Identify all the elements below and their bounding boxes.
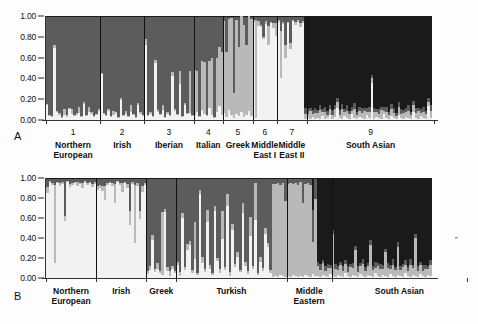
group-divider — [253, 16, 254, 120]
y-tick-label: 0.60 — [20, 213, 36, 223]
edge-artifact-mark: ” — [455, 235, 458, 244]
y-tick-mark — [38, 238, 44, 239]
y-tick-label: 0.80 — [20, 193, 36, 203]
ancestry-segment — [430, 16, 432, 105]
group-divider — [332, 178, 333, 278]
group-divider — [287, 178, 288, 278]
group-divider — [194, 16, 195, 120]
y-tick-label: 0.20 — [20, 94, 36, 104]
group-label: Northern European — [51, 286, 90, 306]
group-label: South Asian — [375, 286, 424, 296]
y-tick-mark — [38, 218, 44, 219]
group-label: Greek — [149, 286, 173, 296]
group-number: 5 — [235, 127, 240, 137]
group-label: Irish — [112, 286, 130, 296]
y-tick-label: 1.00 — [20, 173, 36, 183]
group-divider — [144, 16, 145, 120]
group-number: 1 — [71, 127, 76, 137]
panel-b-plot-area — [46, 178, 432, 278]
y-axis-spine — [45, 16, 46, 120]
panel-b-x-axis: Northern EuropeanIrishGreekTurkishMiddle… — [0, 278, 478, 323]
group-number: 9 — [368, 127, 373, 137]
y-tick-label: 0.60 — [20, 53, 36, 63]
y-tick-mark — [38, 258, 44, 259]
y-tick-mark — [38, 178, 44, 179]
group-divider — [100, 16, 101, 120]
group-divider — [277, 16, 278, 120]
group-label: Iberian — [155, 140, 183, 150]
group-label: Italian — [196, 140, 221, 150]
group-divider — [307, 16, 308, 120]
y-tick-mark — [38, 57, 44, 58]
group-label: Turkish — [216, 286, 246, 296]
group-label: Irish — [113, 140, 131, 150]
admixture-bar — [429, 178, 432, 278]
ancestry-segment — [430, 111, 432, 118]
group-divider — [96, 178, 97, 278]
y-tick-label: 0.20 — [20, 253, 36, 263]
group-label: Northern European — [53, 140, 92, 160]
admixture-bar — [430, 16, 432, 120]
group-label: Middle Eastern — [294, 286, 325, 306]
panel-a: A 0.000.200.400.600.801.00 1Northern Eur… — [0, 8, 478, 163]
y-tick-label: 0.40 — [20, 73, 36, 83]
y-tick-label: 0.80 — [20, 32, 36, 42]
group-label: South Asian — [346, 140, 395, 150]
group-number: 6 — [262, 127, 267, 137]
group-divider — [176, 178, 177, 278]
x-axis-spine — [42, 120, 438, 121]
group-number: 7 — [289, 127, 294, 137]
y-tick-mark — [38, 99, 44, 100]
group-number: 3 — [167, 127, 172, 137]
y-tick-mark — [38, 198, 44, 199]
group-divider — [223, 16, 224, 120]
admixture-figure: A 0.000.200.400.600.801.00 1Northern Eur… — [0, 0, 478, 324]
y-tick-label: 1.00 — [20, 11, 36, 21]
x-axis-spine — [42, 278, 438, 279]
group-number: 4 — [206, 127, 211, 137]
y-tick-mark — [38, 78, 44, 79]
y-tick-mark — [38, 16, 44, 17]
group-number: 2 — [120, 127, 125, 137]
group-label: Middle East II — [278, 140, 305, 160]
x-tick-mark — [467, 278, 468, 282]
panel-a-x-axis: 1Northern European2Irish3Iberian4Italian… — [0, 120, 478, 165]
group-divider — [146, 178, 147, 278]
ancestry-segment — [429, 265, 432, 276]
y-axis-spine — [45, 178, 46, 278]
group-label: Greek — [226, 140, 250, 150]
y-tick-label: 0.40 — [20, 233, 36, 243]
panel-b: B 0.000.200.400.600.801.00 Northern Euro… — [0, 172, 478, 324]
y-tick-mark — [38, 36, 44, 37]
ancestry-segment — [429, 178, 432, 260]
panel-a-plot-area — [46, 16, 432, 120]
group-label: Middle East I — [251, 140, 278, 160]
